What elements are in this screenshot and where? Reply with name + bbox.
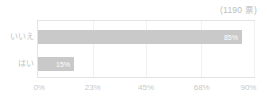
x-tick-4: 90% bbox=[240, 82, 256, 94]
bar-hai[interactable]: 15% bbox=[38, 57, 74, 71]
bar-iie[interactable]: 85% bbox=[38, 30, 242, 44]
bar-row: はい 15% bbox=[38, 57, 254, 71]
x-tick-2: 45% bbox=[138, 82, 154, 94]
x-axis: 0% 23% 45% 68% 90% bbox=[37, 82, 255, 96]
vote-count-label: (1190 票) bbox=[220, 3, 257, 15]
x-tick-1: 23% bbox=[85, 82, 101, 94]
x-tick-3: 68% bbox=[194, 82, 210, 94]
bar-value-label-1: 15% bbox=[56, 61, 70, 68]
bar-chart-widget: (1190 票) いいえ 85% はい 15% 0% 23% 45% 68% 9… bbox=[0, 0, 267, 102]
category-label-0: いいえ bbox=[2, 30, 38, 44]
category-label-1: はい bbox=[2, 57, 38, 71]
plot-area: いいえ 85% はい 15% bbox=[37, 20, 255, 78]
x-tick-0: 0% bbox=[33, 82, 45, 94]
bar-value-label-0: 85% bbox=[224, 34, 238, 41]
bar-row: いいえ 85% bbox=[38, 30, 254, 44]
